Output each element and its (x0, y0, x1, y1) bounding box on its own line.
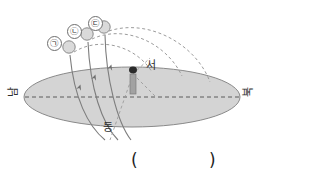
diagram-canvas (0, 0, 310, 186)
observer-body (130, 74, 136, 94)
direction-label-east: 동 (103, 122, 113, 133)
sun-position-label-a: ㉠ (47, 36, 62, 51)
answer-paren-close: ) (209, 152, 216, 169)
direction-label-south: 남 (8, 87, 19, 97)
observer-head (129, 67, 137, 74)
answer-paren-open: ( (131, 152, 138, 169)
sun-marker-a (63, 41, 75, 53)
direction-label-west: 서 (146, 60, 156, 71)
direction-label-north: 북 (243, 87, 254, 97)
sun-position-label-c: ㉢ (88, 16, 103, 31)
celestial-sphere-diagram: 남 북 동 서 ㉠ ㉡ ㉢ ( ) (0, 0, 310, 186)
sun-position-label-b: ㉡ (67, 24, 82, 39)
